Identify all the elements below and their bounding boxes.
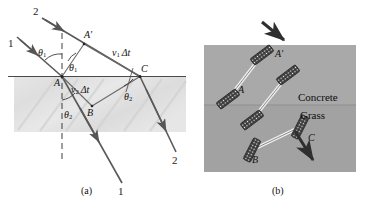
panel-a-point-a-prime-mark: ′ (90, 29, 92, 40)
panel-b-medium-lower-label: Grass (300, 110, 325, 121)
panel-b-caption: (b) (272, 186, 284, 196)
panel-a-point-a-prime-dot (83, 43, 86, 46)
panel-a-point-a-dot (61, 75, 64, 78)
panel-a-theta1-left-subscript: 1 (43, 51, 46, 58)
panel-a-v2-delta-t: Δt (79, 84, 90, 95)
panel-a-theta2-left-label: θ2 (64, 110, 72, 121)
panel-a-theta1-right-subscript: 1 (74, 66, 77, 73)
panel-a-graphics (8, 18, 186, 183)
panel-b-grass-region (204, 105, 356, 172)
panel-a-distance-v1-dt-label: v1Δt (112, 48, 130, 59)
panel-a-ray-label-refracted-2: 2 (172, 155, 178, 166)
panel-b-point-a-label: A (238, 85, 244, 95)
physics-figure: 2 1 1 2 A A′ B C θ1 θ1 θ2 θ2 v1Δt v2Δt (… (0, 0, 371, 208)
panel-a-point-c-label: C (141, 64, 148, 74)
panel-a-theta2-left-subscript: 2 (69, 113, 72, 120)
panel-a-theta1-left-label: θ1 (38, 48, 46, 59)
panel-a-distance-v2-dt-label: v2Δt (71, 85, 89, 96)
panel-a-theta1-left-arc (45, 54, 62, 60)
panel-a-incident-ray-1-arrow (20, 40, 38, 56)
panel-a-ray-label-incident-1: 1 (8, 38, 14, 49)
panel-b-point-c-label: C (308, 133, 315, 143)
panel-a-v1-delta-t: Δt (120, 47, 131, 58)
panel-a-ray-label-incident-2: 2 (33, 6, 39, 17)
panel-b-point-b-label: B (252, 155, 258, 165)
panel-b-medium-upper-label: Concrete (298, 92, 338, 103)
panel-a-theta2-right-label: θ2 (124, 92, 132, 103)
panel-a-theta2-right-subscript: 2 (129, 95, 132, 102)
panel-a-point-a-prime-label: A′ (84, 30, 92, 40)
panel-a-ray-label-refracted-1: 1 (118, 186, 124, 197)
panel-b-point-a-prime-label: A′ (275, 49, 283, 59)
panel-a-point-b-label: B (87, 108, 93, 118)
panel-a-incident-ray-2-arrow (45, 20, 64, 31)
figure-canvas (0, 0, 371, 208)
panel-b-incoming-velocity-arrow (262, 22, 284, 40)
panel-a-point-a-label: A (54, 78, 60, 88)
panel-a-point-c-dot (139, 75, 142, 78)
panel-a-caption: (a) (81, 186, 92, 196)
panel-a-theta1-right-label: θ1 (69, 63, 77, 74)
panel-b-point-a-prime-mark: ′ (281, 48, 283, 59)
